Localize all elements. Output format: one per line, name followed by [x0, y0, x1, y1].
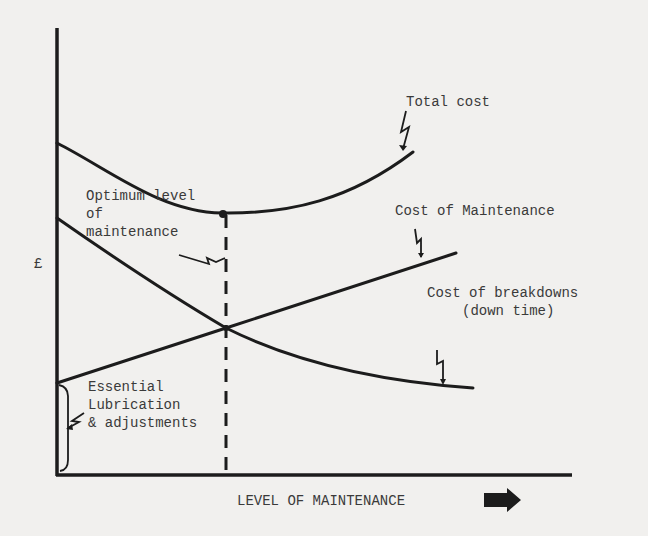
breakdown-cost-label-line2: (down time): [462, 303, 554, 320]
optimum-pointer-icon: [179, 255, 225, 264]
essential-label-line2: Lubrication: [88, 397, 180, 414]
optimum-label-line1: Optimum level: [86, 188, 195, 205]
maintenance-cost-label: Cost of Maintenance: [395, 203, 555, 220]
maintenance-pointer-icon: [415, 229, 421, 257]
optimum-point: [219, 210, 227, 218]
maintenance-arrowhead-icon: [418, 253, 424, 258]
breakdown-pointer-icon: [437, 350, 443, 383]
x-axis-label: LEVEL OF MAINTENANCE: [237, 493, 405, 510]
maintenance-cost-line: [57, 253, 456, 383]
essential-label-line1: Essential: [88, 379, 164, 396]
intersection-point: [223, 325, 229, 331]
y-axis-label: £: [34, 256, 42, 273]
total-cost-pointer-icon: [401, 111, 409, 149]
essential-label-line3: & adjustments: [88, 415, 197, 432]
optimum-label-line3: maintenance: [86, 224, 178, 241]
essential-brace: [59, 385, 68, 471]
essential-arrowhead-icon: [66, 424, 73, 430]
total-cost-label: Total cost: [406, 94, 490, 111]
total-cost-arrowhead-icon: [399, 145, 407, 151]
optimum-label-line2: of: [86, 206, 103, 223]
direction-arrow-icon: [484, 488, 521, 512]
maintenance-cost-diagram: [0, 0, 648, 536]
breakdown-cost-label-line1: Cost of breakdowns: [427, 285, 578, 302]
